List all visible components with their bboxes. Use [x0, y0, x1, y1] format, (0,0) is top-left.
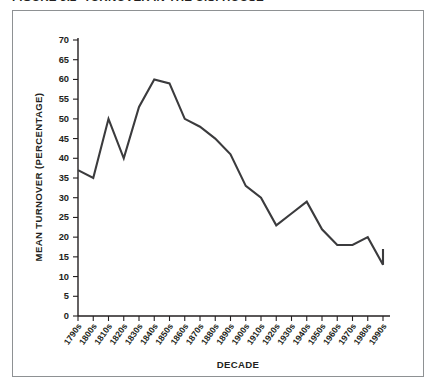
y-tick-label: 70 — [59, 35, 69, 45]
y-tick-label: 10 — [59, 272, 69, 282]
line-chart: 0510152025303540455055606570 1790s1800s1… — [0, 0, 437, 389]
y-axis-tick-marks — [73, 40, 78, 316]
x-axis-title: DECADE — [217, 359, 260, 370]
y-tick-label: 45 — [59, 134, 69, 144]
x-axis-tick-labels: 1790s1800s1810s1820s1830s1840s1850s1860s… — [62, 321, 389, 346]
y-tick-label: 30 — [59, 193, 69, 203]
y-tick-label: 60 — [59, 74, 69, 84]
y-tick-label: 35 — [59, 173, 69, 183]
y-tick-label: 55 — [59, 94, 69, 104]
chart-svg: 0510152025303540455055606570 1790s1800s1… — [0, 0, 437, 389]
y-tick-label: 40 — [59, 153, 69, 163]
y-tick-label: 0 — [64, 311, 69, 321]
y-tick-label: 25 — [59, 212, 69, 222]
x-axis-tick-marks — [78, 316, 383, 321]
y-tick-label: 5 — [64, 291, 69, 301]
y-tick-label: 50 — [59, 114, 69, 124]
y-axis-title: MEAN TURNOVER (PERCENTAGE) — [33, 93, 44, 262]
y-axis-tick-labels: 0510152025303540455055606570 — [59, 35, 69, 321]
y-tick-label: 20 — [59, 232, 69, 242]
y-tick-label: 65 — [59, 55, 69, 65]
turnover-data-line — [78, 79, 383, 264]
y-tick-label: 15 — [59, 252, 69, 262]
